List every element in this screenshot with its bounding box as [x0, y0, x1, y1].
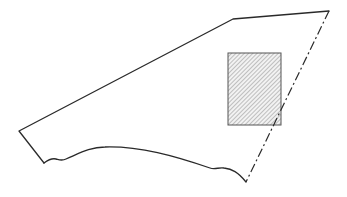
diagram-canvas [0, 0, 347, 197]
solid-top-edges [19, 11, 329, 163]
outline-shape [19, 11, 329, 182]
hatched-rectangle [228, 53, 281, 125]
wavy-bottom-edge [44, 147, 246, 182]
